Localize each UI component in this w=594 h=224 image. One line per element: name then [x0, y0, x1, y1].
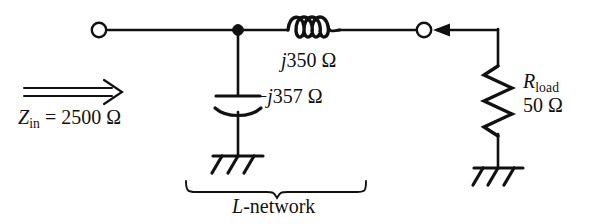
inductor-value-label: j350 Ω [281, 50, 336, 71]
zin-number: 2500 [61, 106, 101, 128]
rload-subscript: load [535, 80, 559, 95]
load-resistor-label: Rload [523, 71, 559, 95]
resistor-symbol [484, 66, 512, 136]
rload-unit: Ω [548, 94, 563, 116]
terminal-left [92, 23, 106, 37]
zin-symbol: Z [18, 106, 29, 128]
zin-subscript: in [29, 116, 40, 131]
ground-right-icon [473, 168, 523, 185]
terminal-right [417, 23, 431, 37]
inductor-number: 350 [287, 49, 317, 71]
input-impedance-label: Zin = 2500 Ω [18, 107, 121, 131]
ground-left-icon [212, 156, 263, 173]
capacitor-value-label: −j357 Ω [256, 86, 323, 107]
rload-symbol: R [523, 70, 535, 92]
network-caption-rest: -network [243, 195, 315, 217]
rload-number: 50 [523, 94, 543, 116]
zin-arrow-icon [24, 80, 122, 104]
zin-equals: = [45, 106, 56, 128]
inductor-unit: Ω [322, 49, 337, 71]
capacitor-number: 357 [273, 85, 303, 107]
load-current-arrow-icon [433, 24, 450, 37]
capacitor-unit: Ω [308, 85, 323, 107]
capacitor-sign: − [256, 85, 267, 107]
zin-unit: Ω [106, 106, 121, 128]
circuit-diagram-figure: j350 Ω −j357 Ω Zin = 2500 Ω Rload 50 Ω L… [0, 0, 594, 224]
network-symbol: L [232, 195, 243, 217]
inductor-symbol [288, 17, 340, 37]
network-caption-label: L-network [232, 196, 315, 217]
load-resistor-value-label: 50 Ω [523, 95, 563, 116]
